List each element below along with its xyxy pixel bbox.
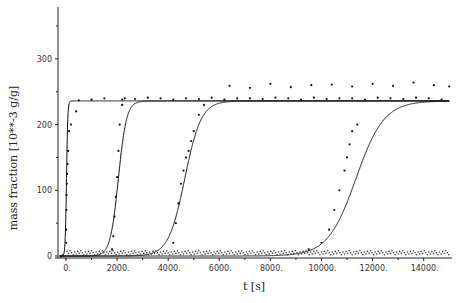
data-point	[65, 229, 67, 231]
data-point	[65, 209, 67, 211]
data-point	[433, 84, 435, 86]
data-point	[147, 97, 149, 99]
data-point	[448, 85, 450, 87]
y-ticks: 0100200300	[37, 26, 58, 261]
x-tick-label: 14000.	[411, 264, 439, 273]
data-point	[134, 98, 136, 100]
chart: 0100200300 0.2000.4000.6000.8000.10000.1…	[0, 0, 460, 303]
data-point	[389, 97, 391, 99]
data-point	[440, 99, 442, 101]
data-point	[349, 143, 351, 145]
data-point	[68, 130, 70, 132]
x-tick-label: 10000.	[309, 264, 337, 273]
data-point	[66, 173, 68, 175]
data-point	[333, 209, 335, 211]
y-tick-label: 100	[37, 186, 52, 195]
data-point	[185, 156, 187, 158]
data-point	[193, 130, 195, 132]
data-point	[188, 150, 190, 152]
data-point	[320, 242, 322, 244]
data-point	[308, 248, 310, 250]
data-point	[402, 98, 404, 100]
data-point	[124, 97, 126, 99]
data-point	[228, 85, 230, 87]
data-point	[211, 97, 213, 99]
data-point	[223, 99, 225, 101]
data-point	[180, 183, 182, 185]
data-point	[313, 97, 315, 99]
data-point	[115, 196, 117, 198]
data-point	[172, 242, 174, 244]
data-point	[190, 140, 192, 142]
data-point	[377, 97, 379, 99]
data-point	[326, 98, 328, 100]
data-point	[113, 215, 115, 217]
data-point	[67, 150, 69, 152]
data-point	[121, 104, 123, 106]
data-point	[412, 81, 414, 83]
data-point	[287, 97, 289, 99]
model-curve	[60, 101, 450, 256]
data-point	[338, 189, 340, 191]
data-point	[66, 163, 68, 165]
data-point	[182, 169, 184, 171]
data-point	[159, 97, 161, 99]
y-tick-label: 300	[37, 55, 52, 64]
data-point	[75, 110, 77, 112]
data-point	[112, 235, 114, 237]
y-tick-label: 200	[37, 121, 52, 130]
data-point	[415, 97, 417, 99]
data-point	[428, 97, 430, 99]
data-point	[300, 99, 302, 101]
data-point	[343, 169, 345, 171]
data-point	[172, 99, 174, 101]
x-tick-label: 0.	[63, 264, 71, 273]
data-point	[328, 229, 330, 231]
data-point	[351, 85, 353, 87]
data-point	[185, 97, 187, 99]
data-point	[290, 86, 292, 88]
data-point	[65, 242, 67, 244]
data-point	[117, 150, 119, 152]
data-point	[364, 99, 366, 101]
data-point	[356, 124, 358, 126]
y-tick-label: 0	[47, 252, 52, 261]
data-point	[119, 124, 121, 126]
data-point	[66, 183, 68, 185]
data-point	[175, 222, 177, 224]
data-point	[249, 97, 251, 99]
data-point	[392, 85, 394, 87]
data-point	[338, 97, 340, 99]
data-point	[262, 98, 264, 100]
x-tick-label: 8000.	[260, 264, 283, 273]
data-point	[269, 83, 271, 85]
data-point	[103, 97, 105, 99]
data-point	[310, 84, 312, 86]
x-tick-label: 6000.	[209, 264, 232, 273]
data-point	[331, 83, 333, 85]
data-points	[60, 81, 450, 259]
data-point	[274, 97, 276, 99]
data-point	[177, 202, 179, 204]
data-point	[372, 83, 374, 85]
data-point	[346, 156, 348, 158]
x-tick-label: 12000.	[360, 264, 388, 273]
x-ticks: 0.2000.4000.6000.8000.10000.12000.14000.	[63, 258, 439, 273]
data-point	[236, 97, 238, 99]
x-axis-title: t [s]	[243, 280, 265, 293]
data-point	[70, 124, 72, 126]
data-point	[203, 104, 205, 106]
data-point	[351, 97, 353, 99]
data-point	[65, 194, 67, 196]
x-tick-label: 2000.	[107, 264, 130, 273]
data-point	[116, 176, 118, 178]
data-point	[351, 130, 353, 132]
model-curves	[60, 101, 450, 256]
data-point	[198, 98, 200, 100]
data-point	[198, 114, 200, 116]
y-axis-title: mass fraction [10**-3 g/g]	[7, 86, 20, 231]
data-point	[90, 99, 92, 101]
data-point	[249, 87, 251, 89]
data-point	[78, 99, 80, 101]
data-point	[121, 99, 123, 101]
